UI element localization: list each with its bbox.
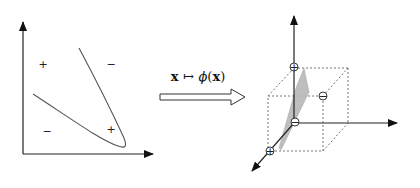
svg-text:+: + — [289, 61, 298, 74]
kernel-mapping-diagram: + − − + x ↦ ϕ(x) — [0, 0, 420, 188]
point-top: + — [289, 61, 298, 74]
mapping-label: x ↦ ϕ(x) — [171, 69, 226, 84]
feature-space-plot: + − − + — [252, 16, 397, 171]
region-sign-top-left: + — [38, 58, 47, 71]
svg-text:+: + — [265, 145, 274, 158]
point-origin: − — [290, 116, 299, 129]
mapping-arrow-group: x ↦ ϕ(x) — [160, 69, 245, 105]
svg-text:−: − — [318, 90, 327, 103]
region-sign-bottom-left: − — [42, 125, 51, 138]
input-space-plot: + − − + — [23, 22, 153, 154]
hollow-arrow-icon — [160, 89, 245, 105]
region-sign-bottom-right: + — [106, 123, 115, 136]
region-sign-top-right: − — [106, 58, 115, 71]
point-front-right: − — [318, 90, 327, 103]
svg-text:−: − — [290, 116, 299, 129]
point-front-left: + — [265, 145, 274, 158]
